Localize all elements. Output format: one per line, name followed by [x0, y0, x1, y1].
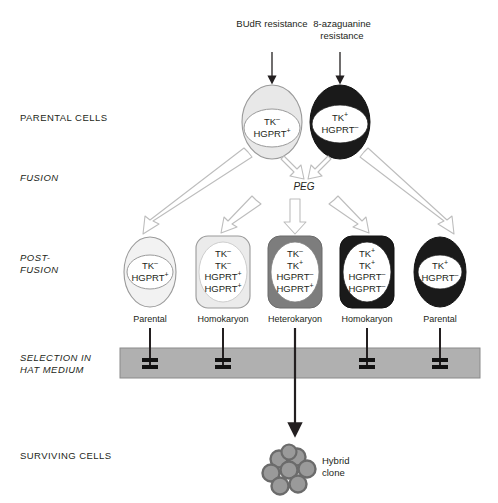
cell-type-label-heterokaryon: Heterokaryon: [254, 314, 336, 325]
cell-type-label-homokaryon-left: Homokaryon: [185, 314, 261, 325]
treatment-label-azaguanine: 8-azaguanine resistance: [296, 18, 388, 42]
cell-type-label-parental-right: Parental: [408, 314, 472, 325]
hybrid-clone-cluster: [263, 445, 316, 495]
peg-arrow-to-homokaryon-left: [221, 196, 261, 233]
genotype-parental-left: TK– HGPRT+: [244, 116, 300, 139]
stage-label-selection-hat-medium: SELECTION IN HAT MEDIUM: [20, 352, 91, 376]
cell-type-label-homokaryon-right: Homokaryon: [329, 314, 405, 325]
genotype-parental-right: TK+ HGPRT–: [312, 112, 368, 135]
hybrid-clone-label: Hybrid clone: [322, 455, 349, 479]
stage-label-post-fusion: POST- FUSION: [20, 252, 59, 276]
genotype-postfusion-heterokaryon: TK– TK+ HGPRT– HGPRT+: [267, 248, 323, 294]
genotype-postfusion-homokaryon-left: TK– TK– HGPRT+ HGPRT+: [195, 248, 251, 294]
genotype-postfusion-homokaryon-right: TK+ TK+ HGPRT– HGPRT–: [339, 248, 395, 294]
genotype-postfusion-parental-left: TK– HGPRT+: [122, 260, 178, 283]
stage-label-fusion: FUSION: [20, 172, 59, 184]
hat-medium-band: [120, 348, 480, 378]
peg-arrow-to-homokaryon-right: [329, 196, 369, 233]
stage-label-parental-cells: PARENTAL CELLS: [20, 112, 107, 124]
peg-arrow-to-heterokaryon: [284, 199, 306, 234]
fusion-arrow-left-to-peg: [281, 156, 304, 179]
fusion-arrow-right-to-peg: [308, 156, 331, 179]
cell-type-label-parental-left: Parental: [118, 314, 182, 325]
peg-label: PEG: [218, 181, 390, 192]
stage-label-surviving-cells: SURVIVING CELLS: [20, 450, 112, 462]
genotype-postfusion-parental-right: TK+ HGPRT–: [412, 260, 468, 283]
